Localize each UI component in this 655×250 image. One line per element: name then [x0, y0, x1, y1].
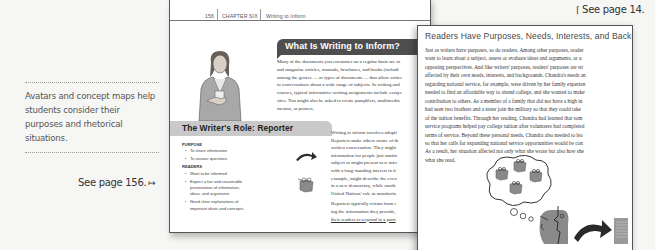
text-line: had seen two brothers and a sister join … — [425, 105, 633, 113]
divider — [260, 9, 261, 21]
text-line: example, might describe the even — [331, 175, 431, 183]
text-line: needed to find an affordable way to atte… — [425, 88, 633, 96]
text-line: among the genres — or types of documents… — [277, 74, 431, 82]
text-line: Writing to inform involves adopti — [331, 129, 431, 137]
thought-bubble-icon — [529, 217, 533, 221]
readers-item: Want to be informed — [182, 171, 282, 177]
reader-head-icon — [540, 206, 569, 244]
text-line: of the tuition benefits. Through her rea… — [425, 114, 633, 122]
overlay-heading: Readers Have Purposes, Needs, Interests,… — [425, 31, 633, 41]
reader-cube-icon — [297, 175, 315, 193]
curved-arrow-icon — [574, 220, 612, 242]
role-box-list: PURPOSE To share information To answer q… — [182, 141, 282, 214]
curved-arrow-icon — [295, 151, 317, 161]
see-page-156-link[interactable]: See page 156.↦ — [78, 177, 156, 188]
intro-paragraph: Many of the documents you encounter on a… — [277, 58, 431, 113]
right-column-text: Writing to inform involves adopti Report… — [331, 129, 431, 223]
divider — [217, 9, 218, 21]
text-line: United Nations' role in monitorin — [331, 190, 431, 198]
text-line: to conversations about a wide range of s… — [277, 81, 431, 89]
text-line: want to learn about a subject, assess or… — [425, 54, 633, 62]
text-line: courses, typical informative-writing ass… — [277, 89, 431, 97]
running-head: 156 CHAPTER SIX Writing to Inform — [170, 0, 430, 21]
text-line: information for people just startin — [331, 152, 431, 160]
text-line: with a long-standing interest in it — [331, 167, 431, 175]
thought-bubble-icon — [511, 209, 518, 216]
purpose-item: To answer questions — [182, 156, 282, 162]
text-line: so that her calls for expanding national… — [425, 139, 633, 147]
text-line: service programs helped pay college tuit… — [425, 122, 633, 130]
section-heading: What Is Writing to Inform? — [277, 39, 431, 55]
text-line: and magazine articles, manuals, brochure… — [277, 66, 431, 74]
paragraph: Writing to inform involves adopti Report… — [331, 129, 431, 197]
thought-bubble-icon — [520, 213, 526, 219]
book-page-156: 156 CHAPTER SIX Writing to Inform What I… — [169, 0, 431, 233]
text-line: memos, or posters. — [277, 105, 431, 113]
thought-cloud-icon — [487, 155, 551, 205]
role-box-title: The Writer's Role: Reporter — [170, 121, 332, 136]
see-page-14-link[interactable]: ⌈ See page 14. — [574, 4, 644, 15]
reporter-avatar-icon — [195, 49, 243, 121]
see-page-156-label: See page 156. — [78, 177, 146, 188]
text-line: written conversation. They might — [331, 144, 431, 152]
chapter-title: Writing to Inform — [266, 13, 306, 19]
text-line: subject or might present new info — [331, 159, 431, 167]
text-line: contribution to others. As a member of a… — [425, 97, 633, 105]
chapter-label: CHAPTER SIX — [222, 13, 258, 19]
text-line: terms of service. Beyond these personal … — [425, 131, 633, 139]
page-number: 156 — [205, 13, 214, 19]
text-line: Many of the documents you encounter on a… — [277, 58, 431, 66]
text-line: affected by their own needs, interests, … — [425, 71, 633, 79]
text-line: Reporters typically refrain from i — [331, 200, 431, 208]
text-line: ing the information they provide, — [331, 208, 431, 216]
purpose-item: To share information — [182, 148, 282, 154]
see-page-14-label: See page 14. — [582, 4, 644, 15]
document-icon — [614, 218, 628, 244]
concept-map-illustration — [478, 154, 628, 244]
text-line: their readers to respond in a parti — [331, 216, 431, 224]
book-page-overlay: Readers Have Purposes, Needs, Interests,… — [417, 25, 633, 250]
pointer-arrow-icon: ↦ — [148, 178, 155, 188]
text-line: sites. You might also be asked to create… — [277, 97, 431, 105]
margin-caption: Avatars and concept maps help students c… — [25, 82, 159, 153]
text-line: opposing perspectives. And like writers'… — [425, 63, 633, 71]
overlay-body: Just as writers have purposes, so do rea… — [425, 46, 633, 164]
text-line: Reporters make others aware of th — [331, 137, 431, 145]
text-line: in a new democracy, while anoth — [331, 182, 431, 190]
readers-item: Need clear explanations of important ide… — [182, 199, 246, 212]
corner-pointer-icon: ⌈ — [576, 5, 579, 15]
paragraph: Reporters typically refrain from i ing t… — [331, 200, 431, 223]
text-line: regarding national service, for example,… — [425, 80, 633, 88]
readers-item: Expect a fair and reasonable presentatio… — [182, 179, 246, 198]
text-line: Just as writers have purposes, so do rea… — [425, 46, 633, 54]
